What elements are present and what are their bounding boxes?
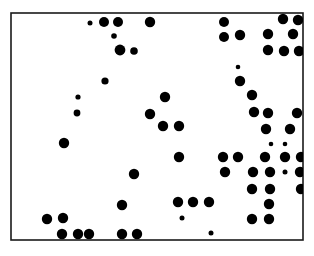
occurrence-dot-r3c4-64 <box>264 199 274 209</box>
occurrence-dot-r2c1-21 <box>75 94 80 99</box>
map-frame-border <box>11 13 303 240</box>
occurrence-dot-r3c1-44 <box>57 229 67 239</box>
occurrence-dot-r3c4-57 <box>248 167 258 177</box>
occurrence-dot-r2c4-38 <box>233 152 243 162</box>
occurrence-dot-r1c2-8 <box>101 77 108 84</box>
occurrence-dot-r1c4-11 <box>235 30 245 40</box>
occurrence-dot-r1c4-14 <box>263 29 273 39</box>
occurrence-dot-r3c2-46 <box>84 229 94 239</box>
occurrence-dot-r2c3-28 <box>174 152 184 162</box>
occurrence-dot-r1c4-16 <box>263 45 273 55</box>
occurrence-dot-r2c4-36 <box>269 142 274 147</box>
occurrence-dot-r3c3-56 <box>209 231 214 236</box>
occurrence-dot-r3c3-52 <box>173 197 183 207</box>
occurrence-dot-r1c4-18 <box>294 46 304 56</box>
occurrence-dot-r2c3-29 <box>218 152 228 162</box>
occurrence-dot-r2c4-31 <box>249 107 259 117</box>
occurrence-dot-r1c2-1 <box>88 21 93 26</box>
occurrence-dot-r2c3-25 <box>160 92 170 102</box>
occurrence-dot-r3c3-54 <box>204 197 214 207</box>
occurrence-dot-r3c3-55 <box>180 216 185 221</box>
occurrence-dot-r1c2-2 <box>99 17 109 27</box>
occurrence-dot-r2c4-40 <box>280 152 290 162</box>
occurrence-dot-r3c4-59 <box>283 170 288 175</box>
occurrence-dot-r1c2-6 <box>115 45 126 56</box>
occurrence-dot-r3c4-66 <box>264 214 274 224</box>
occurrence-dot-r1c4-19 <box>236 65 241 70</box>
occurrence-dot-r1c4-15 <box>288 29 298 39</box>
occurrence-dot-r2c4-33 <box>292 108 302 118</box>
occurrence-dot-r1c2-5 <box>111 33 117 39</box>
distribution-map-figure <box>0 0 314 256</box>
occurrence-dot-r3c2-50 <box>132 229 142 239</box>
occurrence-dot-r3c3-51 <box>220 167 230 177</box>
occurrence-dot-r3c4-58 <box>265 167 275 177</box>
occurrence-dot-r3c4-61 <box>247 184 257 194</box>
occurrence-dot-r3c2-49 <box>117 229 127 239</box>
occurrence-dot-r3c1-42 <box>42 214 52 224</box>
occurrence-dot-r2c1-22 <box>74 110 81 117</box>
occurrence-dot-r1c2-3 <box>113 17 123 27</box>
occurrence-dot-r2c4-30 <box>247 90 257 100</box>
occurrence-dot-r1c2-7 <box>130 47 138 55</box>
occurrence-dot-r3c1-43 <box>58 213 68 223</box>
occurrence-dot-r2c4-32 <box>263 108 273 118</box>
occurrence-dot-r1c2-4 <box>145 17 155 27</box>
occurrence-dot-r1c4-20 <box>235 76 245 86</box>
occurrence-dot-r2c4-34 <box>261 124 271 134</box>
occurrence-dot-r2c4-39 <box>260 152 270 162</box>
occurrence-dot-r1c4-12 <box>278 14 288 24</box>
distribution-map-canvas <box>0 0 314 256</box>
occurrence-dot-r3c2-48 <box>117 200 127 210</box>
occurrence-dot-r3c4-65 <box>247 214 257 224</box>
occurrence-dot-r1c4-17 <box>279 46 289 56</box>
occurrence-dot-r1c3-9 <box>219 17 229 27</box>
occurrence-dot-r2c3-27 <box>174 121 184 131</box>
occurrence-dot-r3c2-47 <box>129 169 139 179</box>
occurrence-dot-r2c4-37 <box>283 142 288 147</box>
occurrence-dot-r3c4-62 <box>265 184 275 194</box>
occurrence-dot-r3c1-45 <box>73 229 83 239</box>
occurrence-dot-r1c3-10 <box>219 32 229 42</box>
occurrence-dot-r2c4-35 <box>285 124 295 134</box>
occurrence-dot-r2c2-24 <box>145 109 155 119</box>
occurrence-dot-r1c4-13 <box>293 15 303 25</box>
occurrence-dot-r2c1-23 <box>59 138 69 148</box>
occurrence-dot-r3c3-53 <box>188 197 198 207</box>
occurrence-dot-r2c3-26 <box>158 121 168 131</box>
